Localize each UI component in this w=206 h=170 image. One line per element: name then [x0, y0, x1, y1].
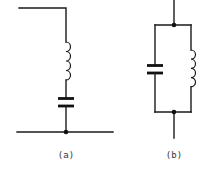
circuit-a-inductor — [66, 42, 71, 80]
circuit-a-junction-dot — [64, 130, 69, 135]
circuit-b-inductor — [191, 50, 196, 87]
circuit-b-top-junction-dot — [172, 23, 177, 28]
circuit-a-series-lc: (a) — [17, 8, 113, 160]
circuit-b-parallel-lc: (b) — [147, 0, 196, 160]
circuit-b-bottom-junction-dot — [172, 110, 177, 115]
circuit-a-top-wire — [19, 8, 66, 42]
circuit-figure: (a) (b) — [0, 0, 206, 170]
circuit-a-label: (a) — [58, 150, 74, 160]
circuit-b-label: (b) — [166, 150, 182, 160]
